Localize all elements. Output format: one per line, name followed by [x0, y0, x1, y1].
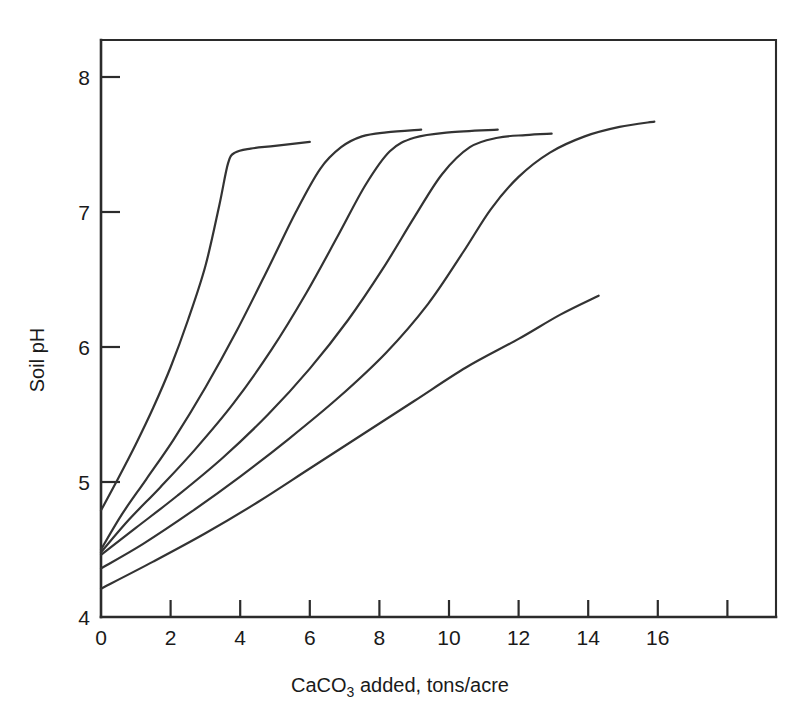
- curve-2: [101, 130, 421, 550]
- curve-4: [101, 134, 552, 555]
- x-axis-title: CaCO3 added, tons/acre: [291, 674, 509, 700]
- x-axis-title-subscript: 3: [347, 684, 355, 700]
- y-axis-ticks: [101, 77, 120, 482]
- x-tick-label-0: 0: [95, 626, 107, 649]
- y-tick-label-8: 8: [78, 66, 90, 89]
- svg-text:CaCO3 added, tons/acre: CaCO3 added, tons/acre: [291, 674, 509, 700]
- x-tick-label-10: 10: [437, 626, 460, 649]
- y-tick-label-5: 5: [78, 471, 90, 494]
- plot-frame-top-right: [101, 40, 776, 617]
- x-tick-label-12: 12: [507, 626, 530, 649]
- y-tick-label-6: 6: [78, 336, 90, 359]
- y-tick-label-4: 4: [78, 606, 90, 629]
- soil-ph-line-chart: 8 7 6 5 4 0 2 4 6 8 10 12 14 16 Soil pH: [0, 0, 811, 718]
- curve-1: [101, 142, 310, 511]
- y-tick-label-7: 7: [78, 201, 90, 224]
- curve-5: [101, 122, 654, 569]
- x-axis-title-post: added, tons/acre: [354, 674, 509, 696]
- curve-6: [101, 296, 599, 589]
- x-tick-label-16: 16: [646, 626, 669, 649]
- x-tick-label-8: 8: [374, 626, 386, 649]
- y-axis-title: Soil pH: [26, 328, 48, 392]
- chart-figure: 8 7 6 5 4 0 2 4 6 8 10 12 14 16 Soil pH: [0, 0, 811, 718]
- x-tick-label-2: 2: [165, 626, 177, 649]
- x-tick-label-6: 6: [304, 626, 316, 649]
- data-curves: [101, 122, 654, 589]
- x-axis-title-pre: CaCO: [291, 674, 347, 696]
- x-tick-label-14: 14: [577, 626, 601, 649]
- x-tick-label-4: 4: [234, 626, 246, 649]
- x-axis-ticks: [171, 600, 728, 617]
- curve-3: [101, 130, 498, 553]
